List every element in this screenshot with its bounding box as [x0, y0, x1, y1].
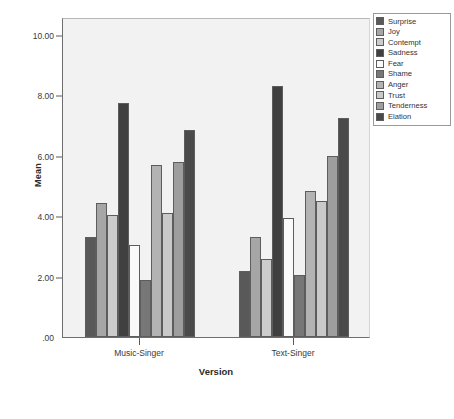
x-tick-mark — [293, 338, 294, 345]
bar-chart: Mean .002.004.006.008.0010.00 Music-Sing… — [0, 0, 454, 419]
bar — [107, 215, 118, 337]
y-tick-label: 8.00 — [14, 91, 54, 101]
bar — [239, 271, 250, 337]
legend-item: Surprise — [376, 16, 448, 27]
x-tick-label: Music-Singer — [114, 348, 164, 358]
bar — [151, 165, 162, 337]
legend-swatch-icon — [376, 70, 384, 78]
legend-item: Contempt — [376, 37, 448, 48]
bar — [316, 201, 327, 337]
y-tick-label: 10.00 — [14, 31, 54, 41]
bar — [140, 280, 151, 337]
legend-label: Shame — [388, 70, 412, 78]
legend-swatch-icon — [376, 17, 384, 25]
legend-item: Anger — [376, 80, 448, 91]
y-tick-label: 4.00 — [14, 212, 54, 222]
bar — [272, 86, 283, 337]
legend-item: Trust — [376, 90, 448, 101]
x-axis-title: Version — [62, 366, 370, 377]
legend-label: Trust — [388, 92, 405, 100]
bar — [96, 203, 107, 337]
bar — [162, 213, 173, 337]
legend-swatch-icon — [376, 113, 384, 121]
bar — [250, 237, 261, 337]
bar — [173, 162, 184, 337]
bar — [327, 156, 338, 337]
bar — [305, 191, 316, 337]
y-tick-label: 2.00 — [14, 273, 54, 283]
y-tick-label: 6.00 — [14, 152, 54, 162]
legend-swatch-icon — [376, 38, 384, 46]
legend-label: Surprise — [388, 18, 416, 26]
legend-swatch-icon — [376, 28, 384, 36]
y-tick-label: .00 — [14, 333, 54, 343]
legend: SurpriseJoyContemptSadnessFearShameAnger… — [373, 13, 451, 126]
legend-item: Joy — [376, 27, 448, 38]
legend-label: Elation — [388, 113, 411, 121]
legend-item: Elation — [376, 111, 448, 122]
plot-area — [62, 18, 370, 338]
bar — [118, 103, 129, 337]
legend-label: Tenderness — [388, 102, 427, 110]
bar — [294, 275, 305, 337]
bar — [85, 237, 96, 337]
x-tick-label: Text-Singer — [272, 348, 315, 358]
legend-swatch-icon — [376, 91, 384, 99]
bar — [184, 130, 195, 337]
legend-item: Fear — [376, 58, 448, 69]
legend-swatch-icon — [376, 102, 384, 110]
legend-item: Sadness — [376, 48, 448, 59]
legend-label: Fear — [388, 60, 404, 68]
bar — [283, 218, 294, 337]
bar — [261, 259, 272, 337]
legend-item: Tenderness — [376, 101, 448, 112]
bar — [129, 245, 140, 337]
legend-swatch-icon — [376, 49, 384, 57]
legend-label: Sadness — [388, 49, 418, 57]
legend-label: Anger — [388, 81, 408, 89]
legend-label: Joy — [388, 28, 400, 36]
legend-swatch-icon — [376, 81, 384, 89]
x-tick-mark — [139, 338, 140, 345]
legend-item: Shame — [376, 69, 448, 80]
legend-swatch-icon — [376, 60, 384, 68]
bar — [338, 118, 349, 337]
legend-label: Contempt — [388, 39, 421, 47]
